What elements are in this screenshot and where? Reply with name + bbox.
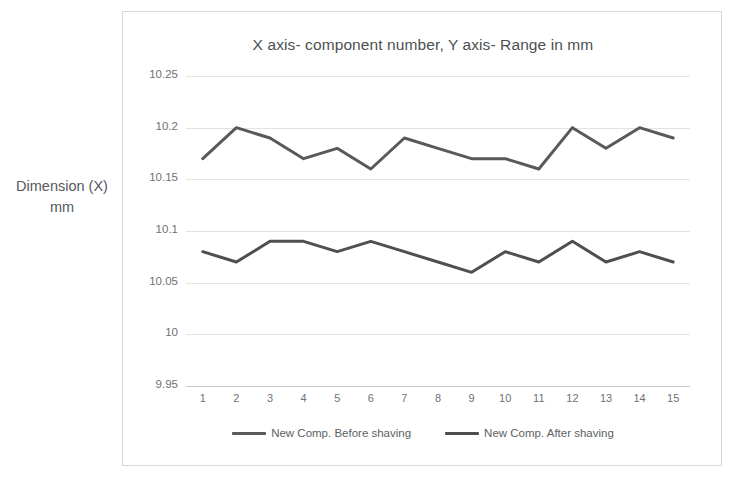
y-axis-title: Dimension (X) mm [6,176,118,218]
chart-legend: New Comp. Before shavingNew Comp. After … [123,427,723,439]
x-axis-tick-label: 15 [658,392,688,404]
x-axis-tick-label: 9 [457,392,487,404]
x-axis-tick-label: 3 [255,392,285,404]
y-axis-tick-label: 9.95 [128,378,178,390]
y-axis-tick-label: 10.15 [128,171,178,183]
legend-label: New Comp. After shaving [484,427,614,439]
y-axis-tick-label: 10.2 [128,120,178,132]
gridline [186,386,690,387]
y-axis-tick-label: 10.25 [128,68,178,80]
y-axis-title-line1: Dimension (X) [6,176,118,197]
y-axis-tick-label: 10 [128,326,178,338]
x-axis-tick-label: 6 [356,392,386,404]
x-axis-tick-label: 10 [490,392,520,404]
x-axis-tick-label: 14 [625,392,655,404]
x-axis-tick-label: 7 [389,392,419,404]
y-axis-tick-label: 10.05 [128,275,178,287]
y-axis-tick-label: 10.1 [128,223,178,235]
legend-item[interactable]: New Comp. After shaving [445,427,614,439]
x-axis-tick-label: 5 [322,392,352,404]
series-line [203,241,673,272]
y-axis-title-line2: mm [6,197,118,218]
legend-label: New Comp. Before shaving [271,427,411,439]
chart-container: X axis- component number, Y axis- Range … [122,11,722,466]
x-axis-tick-label: 12 [557,392,587,404]
x-axis-tick-label: 13 [591,392,621,404]
legend-item[interactable]: New Comp. Before shaving [232,427,411,439]
x-axis-tick-label: 8 [423,392,453,404]
chart-title: X axis- component number, Y axis- Range … [123,36,723,54]
plot-area: 9.951010.0510.110.1510.210.25 1234567891… [186,76,690,386]
series-line [203,128,673,169]
chart-screenshot: Dimension (X) mm X axis- component numbe… [0,0,733,478]
series-lines [186,76,690,386]
legend-swatch-icon [445,432,479,435]
x-axis-tick-label: 1 [188,392,218,404]
x-axis-tick-label: 4 [289,392,319,404]
x-axis-tick-label: 11 [524,392,554,404]
legend-swatch-icon [232,432,266,435]
x-axis-tick-label: 2 [221,392,251,404]
